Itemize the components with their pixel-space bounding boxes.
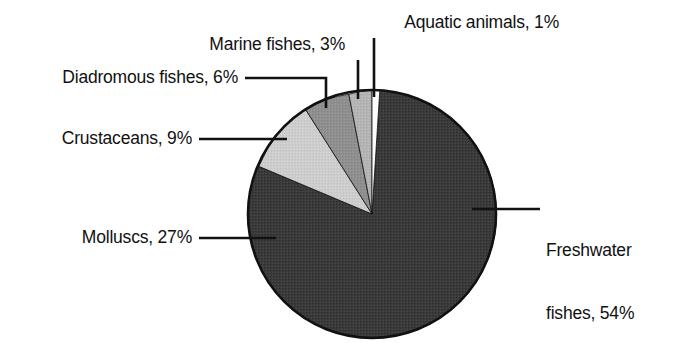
pie-label-freshwater-fishes-line1: Freshwater <box>546 240 677 261</box>
pie-label-molluscs: Molluscs, 27% <box>0 227 192 248</box>
pie-label-aquatic-animals: Aquatic animals, 1% <box>0 12 559 33</box>
pie-label-freshwater-fishes-line2: fishes, 54% <box>546 303 677 324</box>
pie-label-freshwater-fishes: Freshwater fishes, 54% <box>546 198 677 359</box>
pie-label-crustaceans: Crustaceans, 9% <box>0 128 192 149</box>
pie-label-diadromous-fishes: Diadromous fishes, 6% <box>0 67 238 88</box>
pie-label-marine-fishes: Marine fishes, 3% <box>0 34 345 55</box>
pie-chart-figure: Aquatic animals, 1% Marine fishes, 3% Di… <box>0 0 677 359</box>
